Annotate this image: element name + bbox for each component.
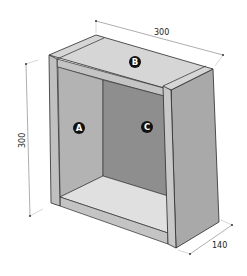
badge-a-label: A	[76, 123, 83, 133]
dimension-height: 300	[18, 60, 43, 217]
badge-b-label: B	[132, 57, 138, 67]
badge-a: A	[73, 122, 85, 134]
badge-b: B	[129, 56, 141, 68]
badge-c-label: C	[144, 122, 150, 132]
width-label: 300	[154, 28, 169, 37]
height-label: 300	[18, 133, 27, 148]
depth-label: 140	[212, 241, 227, 250]
right-side-panel	[171, 69, 219, 248]
badge-c: C	[141, 121, 153, 133]
back-panel-c	[103, 80, 168, 196]
cabinet-diagram: 300 300 140 B A C	[0, 0, 247, 276]
